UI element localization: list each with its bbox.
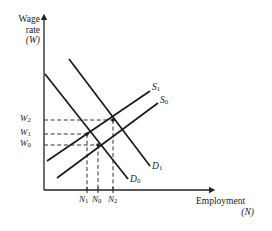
equilibrium-point-e0 xyxy=(96,143,99,146)
y-axis-title: Wage rate (W) xyxy=(6,14,40,46)
curve-label-s1: S1 xyxy=(152,82,160,93)
y-tick-label-w2: W2 xyxy=(20,113,31,124)
supply-curve-s1 xyxy=(47,91,150,161)
y-tick-w1-base: W xyxy=(20,127,28,137)
equilibrium-point-e2 xyxy=(111,118,114,121)
x-tick-label-n1: N1 xyxy=(79,194,88,205)
equilibrium-point-e1 xyxy=(85,132,88,135)
x-tick-label-n0: N0 xyxy=(92,194,101,205)
labor-market-supply-demand-diagram: Wage rate (W) Employment (N) W2 W1 W0 N1… xyxy=(0,0,272,231)
curve-label-d0-base: D xyxy=(130,174,137,184)
curve-label-d1-sub: 1 xyxy=(159,164,162,171)
x-axis-title-text: Employment xyxy=(196,196,245,206)
curve-label-s1-sub: 1 xyxy=(157,85,160,92)
x-tick-n2-sub: 2 xyxy=(114,197,117,204)
y-axis-title-symbol: (W) xyxy=(26,35,40,45)
curve-label-d1: D1 xyxy=(152,161,162,172)
y-tick-w2-sub: 2 xyxy=(28,116,31,123)
y-tick-w0-base: W xyxy=(20,138,28,148)
supply-curve-s0 xyxy=(57,103,158,178)
x-tick-n0-sub: 0 xyxy=(98,197,101,204)
x-tick-label-n2: N2 xyxy=(108,194,117,205)
demand-curve-d1 xyxy=(69,59,150,166)
curve-label-d0: D0 xyxy=(130,174,140,185)
y-tick-label-w0: W0 xyxy=(20,138,31,149)
curve-label-s0-sub: 0 xyxy=(165,98,168,105)
curve-label-s0: S0 xyxy=(160,95,168,106)
x-tick-n1-sub: 1 xyxy=(85,197,88,204)
y-tick-w0-sub: 0 xyxy=(28,141,31,148)
y-axis-title-line2: rate xyxy=(26,25,40,35)
y-tick-w1-sub: 1 xyxy=(28,130,31,137)
y-tick-label-w1: W1 xyxy=(20,127,31,138)
x-axis-title-symbol: (N) xyxy=(241,207,254,217)
x-axis-title: Employment (N) xyxy=(196,196,270,217)
y-tick-w2-base: W xyxy=(20,113,28,123)
curve-label-d1-base: D xyxy=(152,161,159,171)
y-axis-title-line1: Wage xyxy=(19,14,40,24)
curve-label-d0-sub: 0 xyxy=(137,177,140,184)
